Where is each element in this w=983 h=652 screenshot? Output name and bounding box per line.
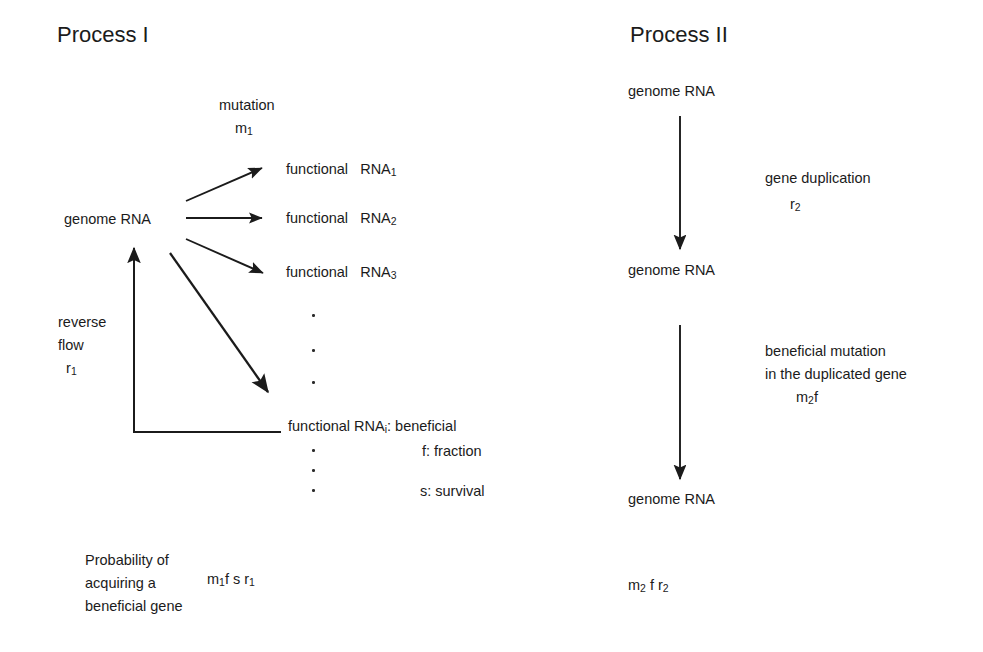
mutation-arrow-i — [170, 253, 268, 392]
process-one-title: Process I — [57, 24, 149, 46]
mutation-rate-sub: 1 — [247, 126, 253, 137]
product-1-gap — [348, 161, 360, 177]
mutation-rate-base: m — [235, 120, 247, 136]
product-node-1: functional RNA1 — [286, 162, 397, 179]
terminal-prefix: functional RNA — [288, 418, 385, 434]
product-3-index: 3 — [391, 270, 397, 281]
process-two-node-2: genome RNA — [628, 263, 715, 278]
reverse-flow-arrow — [134, 248, 281, 432]
reverse-flow-line-2: flow — [58, 337, 84, 353]
process-two-title: Process II — [630, 24, 728, 46]
process-two-formula: m2 f r2 — [628, 578, 669, 595]
formula-mid: f s r — [225, 571, 249, 587]
figure-canvas: Process I mutation m1 genome RNA functio… — [0, 0, 983, 652]
ellipsis-dot — [312, 381, 315, 384]
product-node-3: functional RNA3 — [286, 265, 397, 282]
product-3-gap — [348, 264, 360, 280]
ellipsis-dot — [312, 349, 315, 352]
product-3-name: RNA — [360, 264, 391, 280]
ben-rate-tail: f — [814, 389, 818, 405]
ben-mut-line-2: in the duplicated gene — [765, 366, 907, 382]
process-two-node-1: genome RNA — [628, 84, 715, 99]
process-one-source-node: genome RNA — [64, 212, 151, 227]
beneficial-mutation-rate: m2f — [796, 390, 818, 407]
reverse-flow-rate-sub: 1 — [71, 366, 77, 377]
terminal-product-node: functional RNAi: beneficial — [288, 419, 456, 436]
ellipsis-dot — [312, 314, 315, 317]
mutation-arrow-3 — [186, 239, 263, 273]
product-2-gap — [348, 210, 360, 226]
gene-duplication-rate: r2 — [790, 197, 801, 214]
ellipsis-dot — [312, 449, 315, 452]
product-1-name: RNA — [360, 161, 391, 177]
reverse-flow-line-1: reverse — [58, 314, 106, 330]
result-line-3: beneficial gene — [85, 598, 183, 614]
reverse-flow-label: reverseflow r1 — [58, 311, 106, 383]
product-node-2: functional RNA2 — [286, 211, 397, 228]
mutation-label: mutation — [219, 98, 275, 113]
ellipsis-dot — [312, 489, 315, 492]
p2-formula-r-sub: 2 — [663, 583, 669, 594]
ben-rate-base: m — [796, 389, 808, 405]
dup-rate-sub: 2 — [795, 202, 801, 213]
process-two-node-3: genome RNA — [628, 492, 715, 507]
product-2-name: RNA — [360, 210, 391, 226]
p2-formula-mid: f r — [646, 577, 663, 593]
gene-duplication-label: gene duplication — [765, 171, 871, 186]
result-line-1: Probability of — [85, 552, 169, 568]
product-3-prefix: functional — [286, 264, 348, 280]
definition-fraction: f: fraction — [422, 444, 482, 459]
product-1-prefix: functional — [286, 161, 348, 177]
p2-formula-m: m — [628, 577, 640, 593]
mutation-arrow-1 — [186, 168, 262, 201]
definition-survival: s: survival — [420, 484, 484, 499]
terminal-suffix: : beneficial — [387, 418, 456, 434]
beneficial-mutation-label: beneficial mutationin the duplicated gen… — [765, 340, 907, 386]
result-line-2: acquiring a — [85, 575, 156, 591]
product-2-index: 2 — [391, 216, 397, 227]
formula-r-sub: 1 — [249, 577, 255, 588]
ellipsis-dot — [312, 469, 315, 472]
process-one-result-label: Probability ofacquiring abeneficial gene — [85, 549, 183, 618]
product-2-prefix: functional — [286, 210, 348, 226]
formula-m: m — [207, 571, 219, 587]
process-one-formula: m1f s r1 — [207, 572, 255, 589]
reverse-flow-rate-wrap: r1 — [58, 360, 77, 376]
ben-mut-line-1: beneficial mutation — [765, 343, 886, 359]
mutation-rate-label: m1 — [235, 121, 253, 138]
product-1-index: 1 — [391, 167, 397, 178]
